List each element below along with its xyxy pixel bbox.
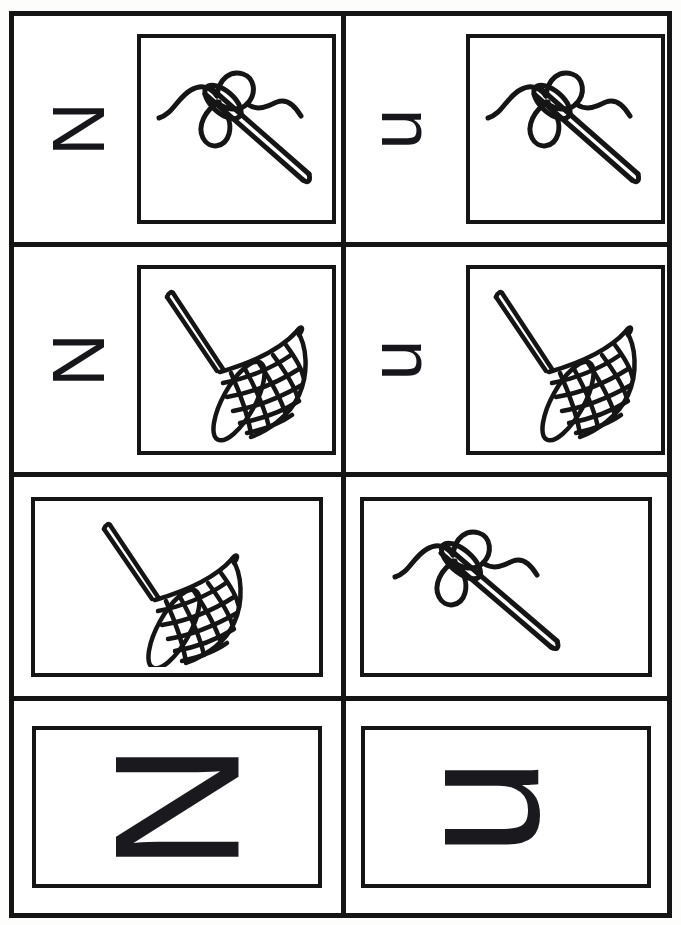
letter-frame-r4c1: N [32, 726, 322, 888]
picture-frame-needle-r1c1 [137, 34, 336, 224]
letter-glyph-lowercase-n: n [370, 339, 444, 380]
butterfly-net-icon [476, 275, 654, 445]
card-cell-r1c2[interactable]: n [341, 16, 668, 242]
needle-and-thread-icon [147, 44, 325, 214]
card-cell-r3c2[interactable] [341, 472, 668, 696]
butterfly-net-icon [147, 275, 325, 445]
letter-slot-r1c1: N [19, 16, 137, 242]
picture-frame-net-r3c1 [31, 497, 323, 677]
card-cell-r2c2[interactable]: n [341, 242, 668, 472]
butterfly-net-icon [46, 507, 308, 667]
letter-slot-r1c2: n [348, 16, 466, 242]
card-cell-r4c2[interactable]: n [341, 696, 668, 913]
worksheet-page: N [0, 0, 681, 925]
card-cell-r3c1[interactable] [14, 472, 341, 696]
picture-frame-net-r2c1 [137, 265, 336, 455]
letter-slot-r2c1: N [19, 247, 137, 472]
card-cell-r2c1[interactable]: N [14, 242, 341, 472]
needle-and-thread-icon [476, 44, 654, 214]
letter-slot-r2c2: n [348, 247, 466, 472]
big-letter-glyph-lowercase-n: n [418, 758, 594, 856]
worksheet-sheet-border: N [9, 11, 672, 918]
big-letter-glyph-uppercase-n: N [88, 743, 266, 872]
picture-frame-needle-r3c2 [360, 497, 652, 677]
picture-frame-net-r2c2 [466, 265, 665, 455]
letter-frame-r4c2: n [361, 726, 651, 888]
card-cell-r4c1[interactable]: N [14, 696, 341, 913]
picture-frame-needle-r1c2 [466, 34, 665, 224]
needle-and-thread-icon [375, 507, 637, 667]
card-grid: N [14, 16, 667, 913]
letter-glyph-uppercase-n: N [41, 102, 115, 155]
letter-glyph-lowercase-n: n [370, 108, 444, 149]
card-cell-r1c1[interactable]: N [14, 16, 341, 242]
letter-glyph-uppercase-n: N [41, 333, 115, 386]
